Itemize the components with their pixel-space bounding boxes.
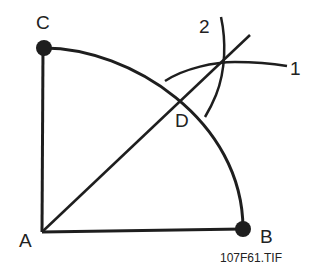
label-arc-2: 2 <box>199 16 210 37</box>
label-a: A <box>19 230 32 251</box>
line-ab <box>42 229 243 232</box>
line-ac <box>42 48 43 232</box>
arc-1 <box>165 62 287 81</box>
label-d: D <box>175 110 189 131</box>
label-c: C <box>36 12 50 33</box>
figure-caption: 107F61.TIF <box>220 251 282 265</box>
line-bisector <box>42 35 250 232</box>
geometry-diagram: C A B D 1 2 107F61.TIF <box>0 0 317 273</box>
label-arc-1: 1 <box>290 58 301 79</box>
point-b-dot <box>235 221 251 237</box>
label-b: B <box>260 226 273 247</box>
point-c-dot <box>36 40 52 56</box>
